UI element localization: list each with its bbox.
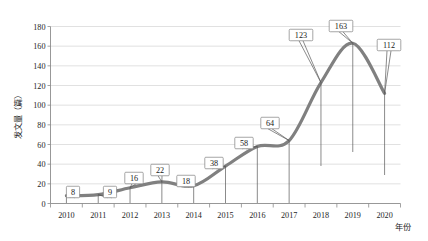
y-tick-label: 80 — [37, 121, 45, 130]
y-tick-label: 120 — [33, 82, 45, 91]
x-tick-label: 2016 — [249, 211, 265, 220]
y-axis-tick-labels: 020406080100120140160180 — [33, 23, 45, 209]
label-leader-line — [303, 41, 321, 83]
label-leader-line — [343, 32, 353, 43]
y-tick-label: 60 — [37, 141, 45, 150]
x-tick-label: 2020 — [376, 211, 392, 220]
x-tick-label: 2010 — [58, 211, 74, 220]
chart-canvas: 0204060801001201401601802010201120122013… — [0, 0, 428, 241]
x-tick-label: 2012 — [122, 211, 138, 220]
data-label-text: 58 — [240, 139, 248, 148]
label-leader-line — [299, 41, 321, 83]
y-tick-label: 100 — [33, 101, 45, 110]
x-axis-tick-labels: 2010201120122013201420152016201720182019… — [58, 211, 393, 220]
x-tick-label: 2019 — [345, 211, 361, 220]
data-label-text: 9 — [108, 188, 112, 197]
axes — [48, 27, 401, 208]
x-tick-label: 2014 — [185, 211, 201, 220]
data-label-text: 38 — [210, 159, 218, 168]
data-label-text: 16 — [130, 174, 138, 183]
label-leader-line — [272, 129, 289, 141]
y-tick-label: 180 — [33, 23, 45, 32]
data-label-text: 22 — [156, 166, 164, 175]
x-tick-label: 2017 — [281, 211, 297, 220]
y-tick-label: 0 — [41, 200, 45, 209]
x-tick-label: 2013 — [154, 211, 170, 220]
y-tick-label: 160 — [33, 42, 45, 51]
data-label-text: 112 — [383, 41, 395, 50]
label-leader-line — [339, 32, 353, 43]
data-label-text: 64 — [266, 119, 274, 128]
gridlines — [51, 27, 401, 184]
x-tick-label: 2015 — [217, 211, 233, 220]
data-labels: 89162218385864123163112 — [66, 20, 400, 203]
x-axis-title: 年份 — [395, 222, 411, 232]
y-tick-label: 140 — [33, 62, 45, 71]
y-tick-label: 40 — [37, 160, 45, 169]
data-label-text: 163 — [335, 22, 347, 31]
x-tick-label: 2011 — [90, 211, 106, 220]
y-tick-label: 20 — [37, 180, 45, 189]
line-chart: 0204060801001201401601802010201120122013… — [0, 0, 428, 241]
data-label-text: 18 — [182, 177, 190, 186]
y-axis-title: 发文量（篇） — [13, 91, 23, 139]
x-tick-label: 2018 — [313, 211, 329, 220]
data-label-text: 8 — [71, 188, 75, 197]
data-label-text: 123 — [295, 31, 307, 40]
